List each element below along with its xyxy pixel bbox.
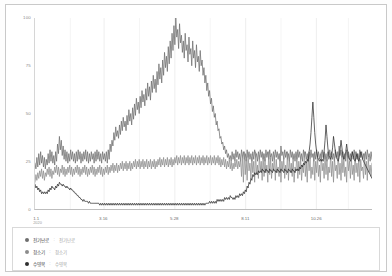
legend-series-value: 수영복 xyxy=(55,261,67,267)
series-line-2[interactable] xyxy=(35,152,372,183)
chart-card: 0255075100 1.120203.165.288.1110.26 전기난로… xyxy=(5,4,387,272)
legend-marker-icon xyxy=(25,250,29,254)
y-tick-label: 25 xyxy=(12,160,31,164)
x-tick-label: 8.11 xyxy=(241,216,249,221)
series-line-1[interactable] xyxy=(35,18,372,169)
legend-marker-icon xyxy=(25,262,29,266)
y-tick-label: 100 xyxy=(12,16,31,20)
legend-marker-icon xyxy=(25,238,29,242)
screenshot-root: 0255075100 1.120203.165.288.1110.26 전기난로… xyxy=(0,0,392,276)
y-tick-label: 50 xyxy=(12,112,31,116)
legend-series-name: 전기난로 xyxy=(33,237,49,243)
legend-item[interactable]: 수영복:수영복 xyxy=(25,258,379,269)
legend-separator: : xyxy=(49,261,50,266)
legend-series-value: 전기난로 xyxy=(59,237,75,243)
x-tick-label: 1.12020 xyxy=(33,216,42,226)
legend-series-name: 청소기 xyxy=(33,249,45,255)
legend-separator: : xyxy=(53,237,54,242)
y-tick-label: 0 xyxy=(12,208,31,212)
x-tick-label: 3.16 xyxy=(99,216,108,221)
plot-region[interactable] xyxy=(34,18,372,210)
line-chart-svg xyxy=(35,18,372,209)
legend-item[interactable]: 전기난로:전기난로 xyxy=(25,234,379,245)
chart-area: 0255075100 1.120203.165.288.1110.26 xyxy=(12,10,380,222)
y-tick-label: 75 xyxy=(12,64,31,68)
x-tick-label: 10.26 xyxy=(311,216,322,221)
legend-item[interactable]: 청소기:청소기 xyxy=(25,246,379,257)
legend-series-name: 수영복 xyxy=(33,261,45,267)
x-axis-year-label: 2020 xyxy=(33,221,42,225)
legend-series-value: 청소기 xyxy=(55,249,67,255)
x-tick-label: 5.28 xyxy=(170,216,179,221)
chart-legend: 전기난로:전기난로청소기:청소기수영복:수영복 xyxy=(12,227,380,271)
legend-separator: : xyxy=(49,249,50,254)
